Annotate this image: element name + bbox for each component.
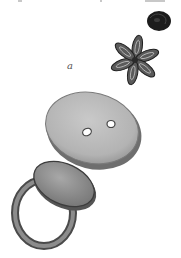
dark-round-button-icon — [147, 11, 171, 31]
figure-label-a: a — [67, 60, 73, 71]
flower-ornament-icon — [110, 35, 160, 86]
illustration — [0, 0, 181, 258]
